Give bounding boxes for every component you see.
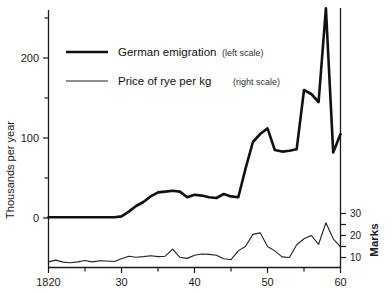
x-tick-label-1830: 30 — [115, 276, 127, 288]
chart-container: 0 100 200 Thousands per year 30 20 10 Ma… — [0, 0, 391, 294]
emigration-rye-price-line-chart: 0 100 200 Thousands per year 30 20 10 Ma… — [0, 0, 391, 294]
legend: German emigration (left scale) Price of … — [66, 46, 280, 87]
series-line-price-of-rye — [49, 223, 341, 263]
y-tick-label-100: 100 — [21, 132, 39, 144]
legend-label-price-of-rye: Price of rye per kg — [118, 75, 211, 87]
y-tick-label-200: 200 — [21, 52, 39, 64]
legend-note-german-emigration: (left scale) — [222, 48, 264, 58]
x-ticks: 1820 30 40 50 60 — [36, 268, 346, 289]
y-tick-label-0: 0 — [33, 212, 39, 224]
legend-note-price-of-rye: (right scale) — [233, 77, 280, 87]
legend-label-german-emigration: German emigration — [118, 46, 216, 58]
right-y-ticks: 30 20 10 — [341, 208, 362, 263]
y2-tick-label-30: 30 — [350, 208, 362, 219]
right-axis-title: Marks — [368, 223, 380, 256]
y2-tick-label-10: 10 — [350, 252, 362, 263]
x-tick-label-1860: 60 — [334, 276, 346, 288]
series-line-german-emigration — [49, 8, 341, 217]
x-tick-label-1840: 40 — [188, 276, 200, 288]
left-axis-title: Thousands per year — [4, 121, 16, 219]
y2-tick-label-20: 20 — [350, 230, 362, 241]
x-tick-label-1850: 50 — [261, 276, 273, 288]
left-y-ticks: 0 100 200 — [21, 18, 49, 224]
x-tick-label-1820: 1820 — [36, 276, 60, 288]
